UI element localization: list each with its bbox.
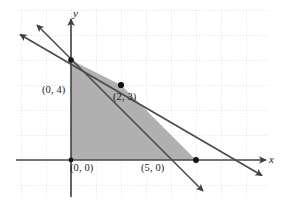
vertex-point-2-3: [118, 82, 124, 88]
coordinate-plane-svg: [0, 0, 281, 209]
vertex-point-5-0: [193, 157, 199, 163]
vertex-point-0-0: [69, 158, 74, 163]
grid-lines: [16, 10, 268, 198]
vertex-point-0-4: [68, 57, 74, 63]
graph-figure: y x (0, 4) (2, 3) (0, 0) (5, 0): [0, 0, 281, 209]
